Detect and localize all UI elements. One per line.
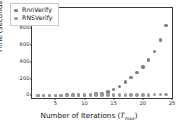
- y-tick-label: 600: [20, 42, 30, 47]
- data-point: [147, 58, 150, 61]
- data-point: [112, 88, 115, 91]
- y-tick-label: 400: [20, 59, 30, 64]
- data-point: [141, 93, 144, 96]
- data-point: [141, 65, 144, 68]
- y-tick-label: 800: [20, 26, 30, 31]
- legend-marker-icon: [14, 17, 18, 21]
- y-tick-mark: [30, 78, 32, 79]
- legend-item-rnnverify: RnnVerify: [14, 7, 53, 15]
- x-axis-label-subscript: max: [125, 116, 135, 121]
- y-tick-mark: [30, 28, 32, 29]
- data-point: [54, 94, 57, 97]
- data-point: [59, 94, 62, 97]
- data-point: [153, 50, 156, 53]
- x-axis-label: Number of Iterations (Tmax): [0, 112, 178, 122]
- data-point: [124, 80, 127, 83]
- legend-label: RnnVerify: [22, 7, 52, 13]
- data-point: [106, 93, 109, 96]
- data-point: [118, 93, 121, 96]
- x-tick-label: 15: [110, 101, 117, 106]
- data-point: [100, 93, 103, 96]
- data-point: [48, 94, 51, 97]
- y-tick-mark: [30, 61, 32, 62]
- data-point: [159, 93, 162, 96]
- data-point: [164, 24, 167, 27]
- y-axis-label: Time (seconds): [0, 0, 3, 53]
- figure-container: 02004006008001000 510152025 Time (second…: [0, 0, 178, 129]
- x-tick-label: 25: [169, 101, 176, 106]
- y-tick-mark: [30, 45, 32, 46]
- x-axis-label-main: Number of Iterations (: [41, 111, 121, 120]
- y-tick-label: 0: [26, 93, 29, 98]
- data-point: [129, 93, 132, 96]
- data-point: [42, 94, 45, 97]
- data-point: [71, 94, 74, 97]
- data-point: [124, 93, 127, 96]
- data-point: [65, 94, 68, 97]
- data-point: [147, 93, 150, 96]
- data-point: [135, 93, 138, 96]
- x-axis-label-close: ): [135, 111, 138, 120]
- data-point: [153, 93, 156, 96]
- x-tick-label: 10: [81, 101, 88, 106]
- y-tick-label: 200: [20, 76, 30, 81]
- legend-marker-icon: [14, 9, 18, 13]
- data-point: [135, 71, 138, 74]
- data-point: [112, 93, 115, 96]
- data-point: [159, 38, 162, 41]
- data-point: [36, 94, 39, 97]
- data-point: [129, 76, 132, 79]
- data-point: [77, 94, 80, 97]
- data-point: [89, 94, 92, 97]
- data-point: [83, 94, 86, 97]
- x-tick-label: 20: [140, 101, 147, 106]
- data-point: [94, 93, 97, 96]
- data-point: [118, 85, 121, 88]
- data-point: [164, 93, 167, 96]
- legend-item-rnsverify: RNSVerify: [14, 15, 53, 23]
- legend-label: RNSVerify: [22, 15, 52, 21]
- y-tick-mark: [30, 95, 32, 96]
- x-tick-label: 5: [54, 101, 57, 106]
- legend: RnnVerify RNSVerify: [10, 3, 59, 26]
